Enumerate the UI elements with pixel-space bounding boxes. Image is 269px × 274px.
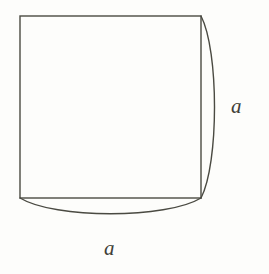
square-outline [20, 16, 201, 198]
right-side-length-label: a [231, 96, 242, 117]
bottom-arc [20, 198, 201, 214]
right-arc [201, 16, 215, 198]
figure-canvas: a a [0, 0, 269, 274]
geometry-diagram [0, 0, 269, 274]
bottom-side-length-label: a [104, 238, 115, 259]
